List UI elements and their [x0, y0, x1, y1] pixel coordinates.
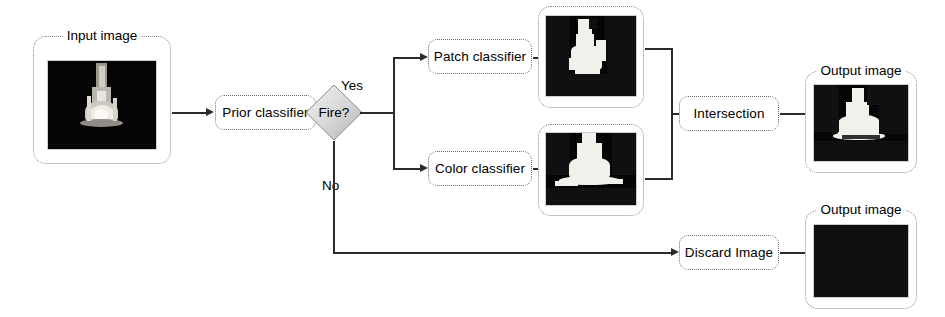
edge-discard-to-output: [780, 252, 808, 254]
edge-yes-to-patch-arrowhead: [420, 53, 428, 61]
patch-result-bitmap: [545, 15, 637, 97]
edge-yes-vertical-bus: [393, 57, 395, 169]
output-top-bitmap: [813, 84, 909, 162]
panel-output-image-bottom: Output image: [805, 210, 917, 309]
panel-output-image-bottom-caption: Output image: [816, 202, 905, 217]
panel-input-image: Input image: [33, 36, 171, 164]
edge-no-to-discard-arrowhead: [671, 248, 679, 256]
edge-yes-to-color-arrowhead: [420, 164, 428, 172]
node-color-classifier[interactable]: Color classifier: [428, 151, 532, 186]
node-discard-image-label: Discard Image: [685, 245, 773, 260]
node-intersection-label: Intersection: [694, 106, 765, 121]
flowchart-canvas: Input image Prior classifier: [0, 0, 945, 317]
edge-intersection-to-output: [780, 113, 808, 115]
node-patch-classifier[interactable]: Patch classifier: [428, 39, 532, 74]
panel-input-image-caption: Input image: [63, 28, 142, 43]
edge-yes-to-patch: [393, 57, 422, 59]
panel-color-result: [538, 124, 644, 216]
edge-no-to-discard: [333, 252, 673, 254]
color-result-bitmap: [545, 132, 637, 206]
edge-yes-to-color: [393, 168, 422, 170]
edge-label-no: No: [322, 178, 339, 193]
panel-patch-result: [538, 6, 644, 108]
panel-output-image-top: Output image: [805, 71, 917, 173]
node-patch-classifier-label: Patch classifier: [434, 49, 526, 64]
node-prior-classifier-label: Prior classifier: [222, 105, 308, 120]
panel-output-image-top-caption: Output image: [816, 63, 905, 78]
edge-patch-result-to-merge: [645, 48, 673, 50]
edge-input-to-prior: [172, 112, 208, 114]
output-bottom-bitmap: [813, 224, 909, 298]
node-decision-fire-label: Fire?: [319, 105, 350, 120]
edge-decision-no-stem: [333, 141, 335, 253]
node-prior-classifier[interactable]: Prior classifier: [215, 95, 316, 130]
node-intersection[interactable]: Intersection: [679, 96, 779, 131]
edge-input-to-prior-arrowhead: [206, 108, 214, 116]
edge-decision-yes-stem: [360, 112, 394, 114]
node-color-classifier-label: Color classifier: [435, 161, 525, 176]
node-discard-image[interactable]: Discard Image: [679, 235, 779, 270]
edge-label-yes: Yes: [341, 78, 363, 93]
input-image-bitmap: [47, 60, 157, 150]
edge-color-result-to-merge: [645, 178, 673, 180]
